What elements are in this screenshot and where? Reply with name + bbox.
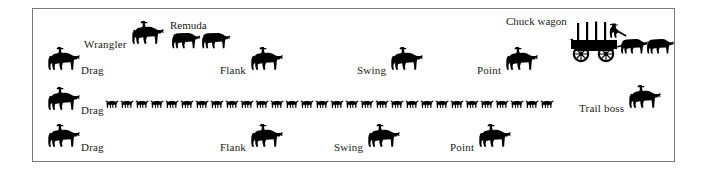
unit-label-chuck-wagon: Chuck wagon: [506, 16, 567, 27]
longhorn-steer-icon: [285, 96, 299, 112]
longhorn-steer-icon: [210, 96, 224, 112]
unit-flank-top: Flank: [220, 45, 286, 79]
longhorn-steer-icon: [525, 96, 539, 112]
longhorn-steer-icon: [165, 96, 179, 112]
diagram-frame: Wrangler Remuda: [32, 8, 675, 162]
unit-label-flank-bottom: Flank: [220, 142, 246, 156]
unit-label-trail-boss: Trail boss: [579, 103, 624, 117]
longhorn-steer-icon: [135, 96, 149, 112]
unit-label-point-bottom: Point: [450, 142, 474, 156]
unit-remuda-1: [171, 31, 201, 53]
longhorn-steer-icon: [480, 96, 494, 112]
longhorn-steer-icon: [510, 96, 524, 112]
longhorn-steer-icon: [405, 96, 419, 112]
unit-label-swing-bottom: Swing: [334, 142, 363, 156]
mounted-rider-icon: [622, 83, 664, 117]
mounted-rider-icon: [41, 122, 83, 156]
unit-chuck-wagon: [565, 20, 675, 67]
longhorn-steer-icon: [345, 96, 359, 112]
cattle-drive-figure: Wrangler Remuda: [0, 0, 705, 178]
mounted-rider-icon: [499, 45, 541, 79]
unit-drag-top: Drag: [41, 45, 104, 79]
mounted-rider-icon: [244, 45, 286, 79]
unit-swing-top: Swing: [357, 45, 426, 79]
unit-swing-bottom: Swing: [334, 122, 403, 156]
longhorn-steer-icon: [270, 96, 284, 112]
mounted-rider-icon: [244, 122, 286, 156]
unit-label-drag-bottom: Drag: [81, 142, 104, 156]
unit-label-drag-top: Drag: [81, 65, 104, 79]
mounted-rider-icon: [41, 85, 83, 119]
longhorn-steer-icon: [465, 96, 479, 112]
longhorn-steer-icon: [195, 96, 209, 112]
longhorn-steer-icon: [180, 96, 194, 112]
unit-drag-bottom: Drag: [41, 122, 104, 156]
unit-flank-bottom: Flank: [220, 122, 286, 156]
longhorn-steer-icon: [450, 96, 464, 112]
unit-label-remuda: Remuda: [170, 20, 207, 31]
mounted-rider-icon: [384, 45, 426, 79]
longhorn-steer-icon: [360, 96, 374, 112]
longhorn-steer-icon: [315, 96, 329, 112]
unit-point-top: Point: [477, 45, 541, 79]
longhorn-steer-icon: [150, 96, 164, 112]
longhorn-steer-icon: [330, 96, 344, 112]
mounted-rider-icon: [41, 45, 83, 79]
longhorn-steer-icon: [390, 96, 404, 112]
mounted-rider-icon: [472, 122, 514, 156]
unit-label-swing-top: Swing: [357, 65, 386, 79]
longhorn-steer-icon: [105, 96, 119, 112]
loose-horse-icon: [171, 31, 201, 53]
mounted-rider-icon: [125, 19, 167, 53]
chuck-wagon-icon: [565, 20, 675, 67]
longhorn-steer-icon: [375, 96, 389, 112]
longhorn-steer-icon: [225, 96, 239, 112]
longhorn-steer-icon: [495, 96, 509, 112]
longhorn-steer-icon: [255, 96, 269, 112]
longhorn-steer-icon: [435, 96, 449, 112]
longhorn-steer-icon: [540, 96, 554, 112]
unit-point-bottom: Point: [450, 122, 514, 156]
longhorn-steer-icon: [240, 96, 254, 112]
longhorn-steer-icon: [120, 96, 134, 112]
longhorn-steer-icon: [420, 96, 434, 112]
unit-label-drag-middle: Drag: [81, 105, 104, 119]
mounted-rider-icon: [361, 122, 403, 156]
unit-drag-middle: Drag: [41, 85, 104, 119]
longhorn-steer-icon: [300, 96, 314, 112]
unit-trail-boss: Trail boss: [579, 83, 664, 117]
unit-label-flank-top: Flank: [220, 65, 246, 79]
unit-label-point-top: Point: [477, 65, 501, 79]
cattle-herd: [105, 96, 555, 112]
